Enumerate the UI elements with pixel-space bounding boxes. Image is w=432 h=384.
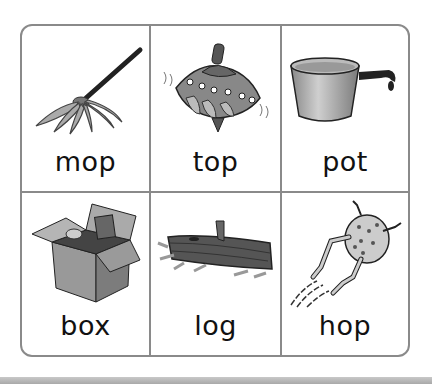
- log-icon: [151, 197, 280, 309]
- word-label: hop: [282, 310, 408, 341]
- card-log: log: [151, 193, 282, 355]
- picture-word-grid: mop top pot: [20, 24, 410, 357]
- word-label: log: [151, 310, 280, 341]
- card-box: box: [22, 193, 151, 355]
- word-label: mop: [22, 146, 149, 177]
- word-label: box: [22, 310, 149, 341]
- cooking-pot-icon: [282, 30, 408, 142]
- bottom-bar: [0, 377, 432, 384]
- card-hop: hop: [282, 193, 408, 355]
- mop-icon: [22, 30, 149, 142]
- cardboard-box-icon: [22, 197, 149, 309]
- card-pot: pot: [282, 26, 408, 193]
- word-label: top: [151, 146, 280, 177]
- hopping-frog-icon: [282, 197, 408, 309]
- card-mop: mop: [22, 26, 151, 193]
- spinning-top-icon: [151, 30, 280, 142]
- card-top: top: [151, 26, 282, 193]
- word-label: pot: [282, 146, 408, 177]
